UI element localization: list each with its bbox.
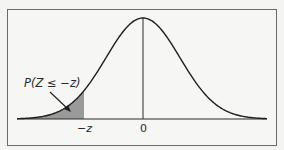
annotation-label: P(Z ≤ −z): [24, 76, 80, 90]
tick-label-zero: 0: [140, 122, 147, 135]
tick-label-neg-z: −z: [77, 122, 92, 135]
normal-distribution-diagram: P(Z ≤ −z) −z 0: [0, 0, 284, 150]
